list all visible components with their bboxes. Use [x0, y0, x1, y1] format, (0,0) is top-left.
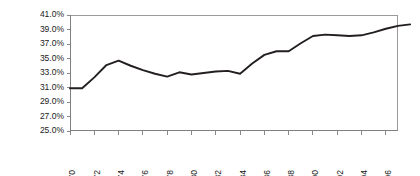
y-axis-tick-label: 35.0%	[40, 53, 65, 63]
y-axis-tick-label: 29.0%	[40, 96, 65, 106]
x-axis-tick-label: 1970	[67, 170, 77, 176]
x-axis-tick-label: 1978	[165, 170, 175, 176]
x-axis-tick-label: 1972	[92, 170, 102, 176]
y-axis-tick-label: 37.0%	[40, 38, 65, 48]
x-axis-tick-label: 1994	[359, 170, 369, 176]
y-axis-tick-label: 31.0%	[40, 82, 65, 92]
x-axis-tick-label: 1988	[286, 170, 296, 176]
y-axis-tick-labels: 41.0%39.0%37.0%35.0%33.0%31.0%29.0%27.0%…	[40, 9, 65, 135]
x-axis-tick-label: 1974	[116, 170, 126, 176]
x-axis-tick-label: 1986	[262, 170, 272, 176]
chart-container: 41.0%39.0%37.0%35.0%33.0%31.0%29.0%27.0%…	[0, 0, 420, 176]
x-axis-tick-label: 1976	[140, 170, 150, 176]
x-axis-tick-marks	[70, 131, 386, 135]
x-axis-tick-label: 1990	[310, 170, 320, 176]
x-axis-tick-label: 1984	[238, 170, 248, 176]
y-axis-tick-label: 25.0%	[40, 125, 65, 135]
x-axis-tick-label: 1992	[335, 170, 345, 176]
x-axis-tick-label: 1980	[189, 170, 199, 176]
x-axis-tick-label: 1982	[213, 170, 223, 176]
y-axis-tick-label: 41.0%	[40, 9, 65, 19]
y-axis-tick-marks	[67, 15, 71, 131]
x-axis-tick-labels: 1970197219741976197819801982198419861988…	[67, 170, 393, 176]
x-axis-tick-label: 1996	[383, 170, 393, 176]
y-axis-tick-label: 33.0%	[40, 67, 65, 77]
line-chart: 41.0%39.0%37.0%35.0%33.0%31.0%29.0%27.0%…	[0, 0, 420, 176]
y-axis-tick-label: 27.0%	[40, 111, 65, 121]
y-axis-tick-label: 39.0%	[40, 24, 65, 34]
